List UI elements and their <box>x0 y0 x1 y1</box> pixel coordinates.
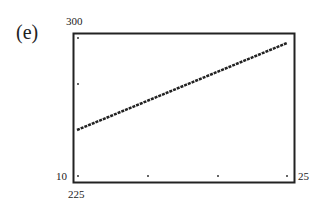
plot-area <box>0 0 315 205</box>
tick-dots <box>77 37 288 177</box>
plot-frame <box>74 34 295 183</box>
data-line <box>77 43 287 130</box>
